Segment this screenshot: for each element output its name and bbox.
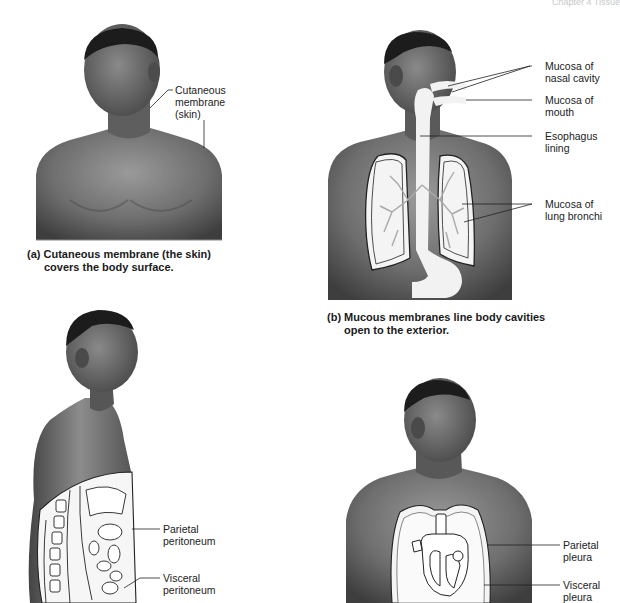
label-cutaneous-membrane: Cutaneous membrane (skin) <box>175 84 226 120</box>
panel-b-figure <box>328 30 532 300</box>
caption-panel-b-line1: (b) Mucous membranes line body cavities <box>327 311 545 323</box>
label-esophagus-lining: Esophagus lining <box>545 130 598 154</box>
label-visceral-pleura: Visceral pleura <box>563 579 600 603</box>
figure-illustrations <box>0 0 620 603</box>
caption-panel-b-line2: open to the exterior. <box>327 324 545 337</box>
label-visceral-peritoneum: Visceral peritoneum <box>163 572 216 596</box>
panel-d-figure <box>346 378 560 603</box>
panel-a-figure <box>36 24 222 240</box>
label-mucosa-lung-bronchi: Mucosa of lung bronchi <box>545 198 602 222</box>
caption-panel-a-line1: (a) Cutaneous membrane (the skin) <box>27 248 211 260</box>
caption-panel-b: (b) Mucous membranes line body cavities … <box>327 311 545 337</box>
caption-panel-a: (a) Cutaneous membrane (the skin) covers… <box>27 248 211 274</box>
caption-panel-a-line2: covers the body surface. <box>27 261 211 274</box>
label-mucosa-nasal-cavity: Mucosa of nasal cavity <box>545 60 600 84</box>
label-parietal-pleura: Parietal pleura <box>563 539 599 563</box>
panel-c-figure <box>29 310 160 603</box>
label-parietal-peritoneum: Parietal peritoneum <box>163 523 216 547</box>
label-mucosa-mouth: Mucosa of mouth <box>545 94 593 118</box>
